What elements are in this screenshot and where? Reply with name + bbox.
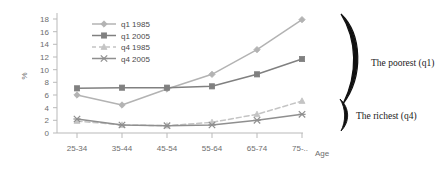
annotation-brace-poorest bbox=[341, 14, 358, 104]
y-axis-title: % bbox=[20, 72, 29, 79]
x-tick-label-35-44: 35-44 bbox=[112, 144, 133, 153]
data-point-square-marker bbox=[164, 85, 169, 90]
legend-item-q4-1985[interactable]: q4 1985 bbox=[92, 43, 150, 52]
y-tick-label-18: 18 bbox=[40, 15, 49, 24]
data-point-cross-marker bbox=[298, 111, 305, 117]
annotation-label-poorest: The poorest (q1) bbox=[371, 58, 434, 69]
data-point-cross-marker bbox=[100, 55, 107, 61]
data-point-triangle-marker bbox=[299, 98, 305, 104]
line-chart: 0 2 4 6 8 10 12 14 16 18 % 25-34 35-44 4… bbox=[0, 0, 447, 173]
data-point-square-marker bbox=[299, 56, 304, 61]
x-tick-label-55-64: 55-64 bbox=[202, 144, 223, 153]
x-tick-label-65-74: 65-74 bbox=[247, 144, 268, 153]
y-tick-label-6: 6 bbox=[45, 91, 50, 100]
data-point-diamond-marker bbox=[74, 92, 80, 98]
legend-label: q4 2005 bbox=[121, 55, 150, 64]
x-tick-label-25-34: 25-34 bbox=[67, 144, 88, 153]
y-tick-label-12: 12 bbox=[40, 53, 49, 62]
y-tick-label-0: 0 bbox=[45, 129, 50, 138]
chart-legend: q1 1985q1 2005q4 1985q4 2005 bbox=[92, 20, 150, 64]
data-point-square-marker bbox=[101, 33, 106, 38]
data-point-triangle-marker bbox=[254, 111, 260, 117]
y-tick-label-16: 16 bbox=[40, 28, 49, 37]
y-tick-label-14: 14 bbox=[40, 40, 49, 49]
y-tick-label-10: 10 bbox=[40, 66, 49, 75]
series-layer bbox=[73, 16, 305, 128]
data-point-cross-marker bbox=[253, 117, 260, 123]
x-tick-label-75-plus: 75-.. bbox=[292, 144, 308, 153]
annotation-brace-richest bbox=[340, 99, 348, 131]
data-point-diamond-marker bbox=[209, 71, 215, 77]
y-tick-label-8: 8 bbox=[45, 78, 50, 87]
data-point-square-marker bbox=[209, 84, 214, 89]
series-q4-2005 bbox=[73, 111, 305, 129]
legend-item-q1-2005[interactable]: q1 2005 bbox=[92, 32, 150, 41]
legend-item-q1-1985[interactable]: q1 1985 bbox=[92, 20, 150, 29]
chart-canvas: 0 2 4 6 8 10 12 14 16 18 % 25-34 35-44 4… bbox=[0, 0, 447, 173]
x-axis-title: Age bbox=[315, 149, 330, 158]
y-tick-label-4: 4 bbox=[45, 104, 50, 113]
legend-item-q4-2005[interactable]: q4 2005 bbox=[92, 55, 150, 64]
series-q1-2005 bbox=[74, 56, 304, 91]
data-point-square-marker bbox=[254, 72, 259, 77]
legend-label: q1 2005 bbox=[121, 32, 150, 41]
annotation-label-richest: The richest (q4) bbox=[356, 111, 417, 122]
x-tick-label-45-54: 45-54 bbox=[157, 144, 178, 153]
x-tick-marks bbox=[77, 133, 302, 138]
legend-label: q1 1985 bbox=[121, 20, 150, 29]
y-tick-marks bbox=[53, 19, 57, 133]
legend-label: q4 1985 bbox=[121, 43, 150, 52]
series-q1-1985 bbox=[74, 16, 305, 108]
data-point-square-marker bbox=[119, 85, 124, 90]
y-tick-label-2: 2 bbox=[45, 116, 50, 125]
data-point-diamond-marker bbox=[101, 21, 107, 27]
data-point-square-marker bbox=[74, 86, 79, 91]
data-point-diamond-marker bbox=[119, 102, 125, 108]
